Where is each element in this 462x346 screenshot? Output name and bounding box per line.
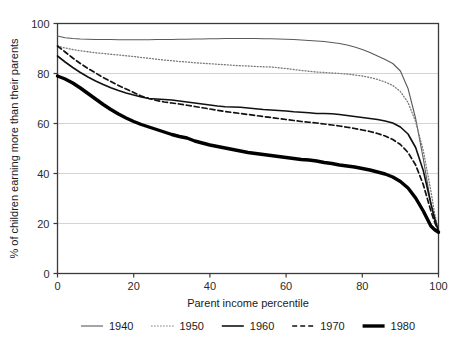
legend-label-1940: 1940 bbox=[109, 320, 133, 332]
legend-label-1950: 1950 bbox=[179, 320, 203, 332]
legend-label-1980: 1980 bbox=[391, 320, 415, 332]
chart-container: 020406080100 020406080100 Parent income … bbox=[0, 0, 462, 346]
legend-label-1960: 1960 bbox=[250, 320, 274, 332]
x-tick-label-100: 100 bbox=[429, 280, 447, 292]
x-tick-label-80: 80 bbox=[356, 280, 368, 292]
y-tick-label-80: 80 bbox=[37, 68, 49, 80]
y-tick-label-0: 0 bbox=[43, 268, 49, 280]
x-axis-title: Parent income percentile bbox=[187, 297, 309, 309]
y-tick-label-40: 40 bbox=[37, 168, 49, 180]
y-tick-label-60: 60 bbox=[37, 118, 49, 130]
x-tick-label-20: 20 bbox=[128, 280, 140, 292]
y-axis-title: % of children earning more than their pa… bbox=[8, 38, 20, 259]
x-tick-label-60: 60 bbox=[280, 280, 292, 292]
y-tick-label-20: 20 bbox=[37, 218, 49, 230]
y-tick-label-100: 100 bbox=[31, 18, 49, 30]
x-tick-label-40: 40 bbox=[204, 280, 216, 292]
x-tick-label-0: 0 bbox=[54, 280, 60, 292]
legend-label-1970: 1970 bbox=[320, 320, 344, 332]
line-chart: 020406080100 020406080100 Parent income … bbox=[0, 0, 462, 346]
